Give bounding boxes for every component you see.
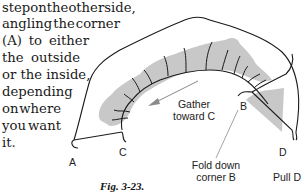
gather-arrow-head (148, 98, 160, 106)
label-gather-instruction: Gather toward C (166, 98, 222, 122)
paragraph-line-4: the outside (2, 50, 80, 66)
gather-line-1: Gather (166, 98, 222, 110)
word: step (2, 0, 30, 16)
word: where (19, 101, 61, 117)
paragraph-line-7: on where (2, 101, 61, 117)
bottom-edge (74, 132, 122, 140)
fold-line-1: Fold down (186, 159, 246, 171)
label-pull-instruction: Pull D (273, 171, 301, 183)
word: other (68, 0, 104, 16)
corner-c-curl (122, 132, 126, 142)
fold-line-2: corner B (186, 171, 246, 183)
paragraph-line-3: (A) to either (2, 33, 89, 49)
paragraph-line-9: it. (2, 135, 16, 151)
word: the (2, 50, 24, 66)
word: want (28, 118, 61, 134)
corner-b-curl (238, 92, 252, 96)
word: corner (76, 16, 120, 32)
word: the (47, 0, 69, 16)
label-fold-instruction: Fold down corner B (186, 159, 246, 183)
paragraph-line-1: step on the other side, (2, 0, 128, 16)
figure-caption: Fig. 3-23. (100, 180, 144, 192)
paragraph-line-8: you want (2, 118, 61, 134)
label-corner-d: D (279, 146, 287, 158)
word: angling (2, 16, 52, 32)
word: (A) (2, 33, 22, 49)
gather-line-2: toward C (166, 110, 222, 122)
paragraph-line-5: or the inside, (2, 67, 90, 83)
word: the (53, 16, 75, 32)
word: it. (2, 135, 16, 150)
word: depending (2, 84, 73, 99)
word: you (2, 118, 26, 134)
word: on (30, 0, 46, 16)
word: side, (104, 0, 135, 16)
word: outside (31, 50, 80, 66)
word: on (2, 101, 18, 117)
word: or the inside, (2, 67, 90, 82)
word: either (49, 33, 89, 49)
right-shading (246, 88, 284, 132)
label-corner-c: C (119, 146, 127, 158)
label-corner-b: B (240, 100, 247, 112)
corner-a-curl (72, 140, 78, 148)
paragraph-line-6: depending (2, 84, 73, 100)
paragraph-line-2: angling the corner (2, 16, 120, 32)
label-corner-a: A (69, 156, 76, 168)
word: to (29, 33, 42, 49)
